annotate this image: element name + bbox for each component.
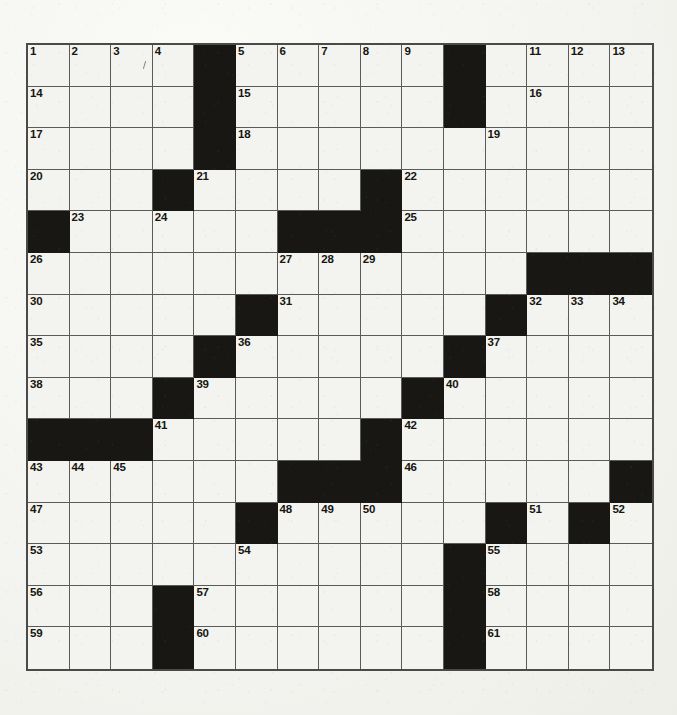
- cell-r12c13-num-51[interactable]: 51: [527, 503, 569, 545]
- cell-r6c5[interactable]: [194, 253, 236, 295]
- cell-r15c2[interactable]: [70, 627, 112, 669]
- cell-r5c2-num-23[interactable]: 23: [70, 211, 112, 253]
- cell-r2c10[interactable]: [402, 87, 444, 129]
- cell-r7c11[interactable]: [444, 295, 486, 337]
- cell-r4c5-num-21[interactable]: 21: [194, 170, 236, 212]
- cell-r11c6[interactable]: [236, 461, 278, 503]
- cell-r6c3[interactable]: [111, 253, 153, 295]
- cell-r12c2[interactable]: [70, 503, 112, 545]
- cell-r1c13-num-11[interactable]: 11: [527, 45, 569, 87]
- cell-r1c9-num-8[interactable]: 8: [361, 45, 403, 87]
- cell-r9c6[interactable]: [236, 378, 278, 420]
- cell-r8c14[interactable]: [569, 336, 611, 378]
- cell-r4c11[interactable]: [444, 170, 486, 212]
- cell-r13c13[interactable]: [527, 544, 569, 586]
- cell-r6c1-num-26[interactable]: 26: [28, 253, 70, 295]
- cell-r13c4[interactable]: [153, 544, 195, 586]
- cell-r11c1-num-43[interactable]: 43: [28, 461, 70, 503]
- cell-r13c1-num-53[interactable]: 53: [28, 544, 70, 586]
- cell-r3c6-num-18[interactable]: 18: [236, 128, 278, 170]
- cell-r15c10[interactable]: [402, 627, 444, 669]
- cell-r6c4[interactable]: [153, 253, 195, 295]
- cell-r10c10-num-42[interactable]: 42: [402, 419, 444, 461]
- cell-r2c13-num-16[interactable]: 16: [527, 87, 569, 129]
- cell-r5c13[interactable]: [527, 211, 569, 253]
- cell-r7c8[interactable]: [319, 295, 361, 337]
- cell-r3c15[interactable]: [610, 128, 652, 170]
- cell-r14c10[interactable]: [402, 586, 444, 628]
- cell-r5c4-num-24[interactable]: 24: [153, 211, 195, 253]
- cell-r10c8[interactable]: [319, 419, 361, 461]
- cell-r14c7[interactable]: [278, 586, 320, 628]
- cell-r2c2[interactable]: [70, 87, 112, 129]
- cell-r9c1-num-38[interactable]: 38: [28, 378, 70, 420]
- cell-r2c3[interactable]: [111, 87, 153, 129]
- cell-r9c13[interactable]: [527, 378, 569, 420]
- cell-r8c13[interactable]: [527, 336, 569, 378]
- cell-r7c9[interactable]: [361, 295, 403, 337]
- cell-r14c14[interactable]: [569, 586, 611, 628]
- cell-r2c6-num-15[interactable]: 15: [236, 87, 278, 129]
- cell-r4c13[interactable]: [527, 170, 569, 212]
- cell-r3c11[interactable]: [444, 128, 486, 170]
- cell-r12c9-num-50[interactable]: 50: [361, 503, 403, 545]
- cell-r4c1-num-20[interactable]: 20: [28, 170, 70, 212]
- cell-r14c15[interactable]: [610, 586, 652, 628]
- cell-r15c9[interactable]: [361, 627, 403, 669]
- cell-r8c3[interactable]: [111, 336, 153, 378]
- cell-r8c12-num-37[interactable]: 37: [486, 336, 528, 378]
- cell-r5c12[interactable]: [486, 211, 528, 253]
- cell-r12c3[interactable]: [111, 503, 153, 545]
- cell-r10c13[interactable]: [527, 419, 569, 461]
- cell-r3c10[interactable]: [402, 128, 444, 170]
- cell-r14c5-num-57[interactable]: 57: [194, 586, 236, 628]
- crossword-grid[interactable]: 1234567891112131415161718192021222324252…: [26, 43, 654, 671]
- cell-r12c1-num-47[interactable]: 47: [28, 503, 70, 545]
- cell-r6c10[interactable]: [402, 253, 444, 295]
- cell-r15c5-num-60[interactable]: 60: [194, 627, 236, 669]
- cell-r12c10[interactable]: [402, 503, 444, 545]
- cell-r2c12[interactable]: [486, 87, 528, 129]
- cell-r8c2[interactable]: [70, 336, 112, 378]
- cell-r1c2-num-2[interactable]: 2: [70, 45, 112, 87]
- cell-r3c9[interactable]: [361, 128, 403, 170]
- cell-r6c11[interactable]: [444, 253, 486, 295]
- cell-r8c4[interactable]: [153, 336, 195, 378]
- cell-r7c15-num-34[interactable]: 34: [610, 295, 652, 337]
- cell-r9c8[interactable]: [319, 378, 361, 420]
- cell-r2c14[interactable]: [569, 87, 611, 129]
- cell-r7c3[interactable]: [111, 295, 153, 337]
- cell-r13c10[interactable]: [402, 544, 444, 586]
- cell-r8c9[interactable]: [361, 336, 403, 378]
- cell-r5c15[interactable]: [610, 211, 652, 253]
- cell-r3c12-num-19[interactable]: 19: [486, 128, 528, 170]
- cell-r7c5[interactable]: [194, 295, 236, 337]
- cell-r2c7[interactable]: [278, 87, 320, 129]
- cell-r11c10-num-46[interactable]: 46: [402, 461, 444, 503]
- cell-r3c14[interactable]: [569, 128, 611, 170]
- cell-r7c4[interactable]: [153, 295, 195, 337]
- cell-r4c6[interactable]: [236, 170, 278, 212]
- cell-r3c7[interactable]: [278, 128, 320, 170]
- cell-r5c5[interactable]: [194, 211, 236, 253]
- cell-r7c7-num-31[interactable]: 31: [278, 295, 320, 337]
- cell-r13c6-num-54[interactable]: 54: [236, 544, 278, 586]
- cell-r1c8-num-7[interactable]: 7: [319, 45, 361, 87]
- cell-r9c14[interactable]: [569, 378, 611, 420]
- cell-r13c3[interactable]: [111, 544, 153, 586]
- cell-r14c3[interactable]: [111, 586, 153, 628]
- cell-r12c15-num-52[interactable]: 52: [610, 503, 652, 545]
- cell-r4c10-num-22[interactable]: 22: [402, 170, 444, 212]
- cell-r6c7-num-27[interactable]: 27: [278, 253, 320, 295]
- cell-r3c8[interactable]: [319, 128, 361, 170]
- cell-r14c12-num-58[interactable]: 58: [486, 586, 528, 628]
- cell-r2c9[interactable]: [361, 87, 403, 129]
- cell-r1c12[interactable]: [486, 45, 528, 87]
- cell-r11c5[interactable]: [194, 461, 236, 503]
- cell-r14c13[interactable]: [527, 586, 569, 628]
- cell-r15c14[interactable]: [569, 627, 611, 669]
- cell-r1c10-num-9[interactable]: 9: [402, 45, 444, 87]
- cell-r10c5[interactable]: [194, 419, 236, 461]
- cell-r10c4-num-41[interactable]: 41: [153, 419, 195, 461]
- cell-r3c4[interactable]: [153, 128, 195, 170]
